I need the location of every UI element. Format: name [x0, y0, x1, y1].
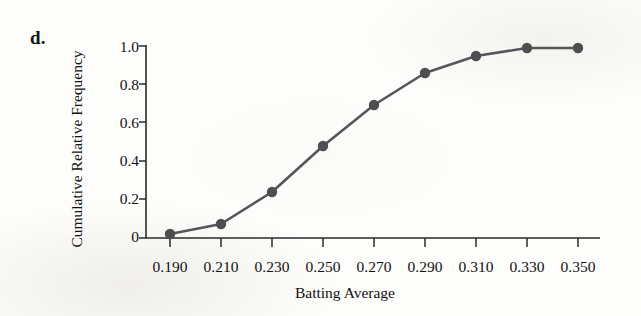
data-point — [471, 51, 481, 61]
ogive-plot — [0, 0, 641, 316]
data-point — [267, 187, 277, 197]
data-line — [170, 48, 578, 234]
data-point — [318, 141, 328, 151]
data-point — [573, 43, 583, 53]
figure-page: d. Cumulative Relative Frequency Batting… — [0, 0, 641, 316]
data-point — [369, 100, 379, 110]
data-point — [165, 229, 175, 239]
data-points — [165, 43, 583, 239]
data-point — [216, 219, 226, 229]
y-tick-marks — [139, 46, 146, 238]
x-tick-marks — [170, 238, 578, 247]
data-point — [420, 68, 430, 78]
data-point — [522, 43, 532, 53]
